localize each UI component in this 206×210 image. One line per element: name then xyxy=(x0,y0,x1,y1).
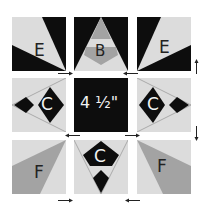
block-c-shape xyxy=(137,78,191,132)
block-size-label: 4 ½" xyxy=(80,95,118,111)
block-c-shape xyxy=(12,78,66,132)
block-label: C xyxy=(94,148,106,165)
block-label: B xyxy=(95,44,105,59)
block-c-middle-left: C xyxy=(12,78,66,132)
arrow-up-icon xyxy=(194,58,199,74)
block-f-bottom-left: F xyxy=(12,140,66,194)
block-label: C xyxy=(147,96,159,113)
block-c-middle-right: C xyxy=(137,78,191,132)
block-label: F xyxy=(157,158,167,175)
block-label: E xyxy=(34,42,45,59)
arrow-left-icon xyxy=(124,198,140,203)
block-label: F xyxy=(34,164,44,181)
block-e-top-left: E xyxy=(12,17,66,71)
block-label: C xyxy=(41,96,53,113)
arrow-right-icon xyxy=(125,133,141,138)
block-b-top-center: B xyxy=(74,17,128,71)
arrow-down-icon xyxy=(194,126,199,142)
block-c-bottom-center: C xyxy=(74,140,128,194)
arrow-right-icon xyxy=(58,198,74,203)
block-e-top-right: E xyxy=(137,17,191,71)
arrow-left-icon xyxy=(64,133,80,138)
block-label: E xyxy=(159,39,170,56)
arrow-left-icon xyxy=(122,71,138,76)
block-center-square: 4 ½" xyxy=(74,78,128,132)
block-f-bottom-right: F xyxy=(137,140,191,194)
arrow-right-icon xyxy=(58,71,74,76)
